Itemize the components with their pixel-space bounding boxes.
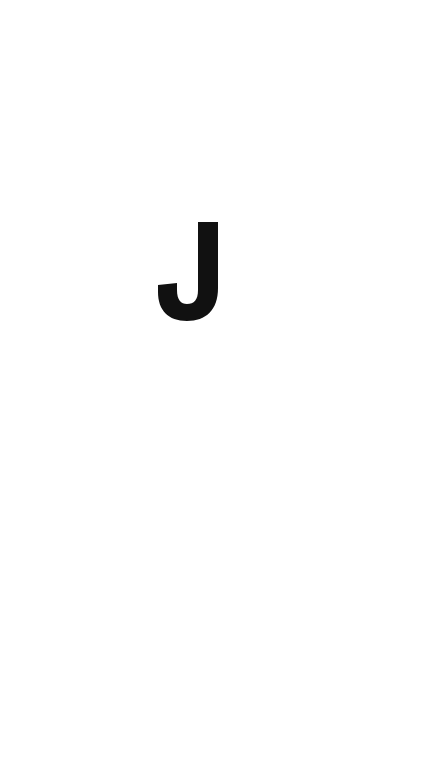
splash-screen: J	[0, 0, 425, 762]
logo-letter: J	[156, 322, 157, 323]
app-logo: J	[156, 220, 220, 322]
letter-j-logo-icon	[156, 220, 220, 322]
